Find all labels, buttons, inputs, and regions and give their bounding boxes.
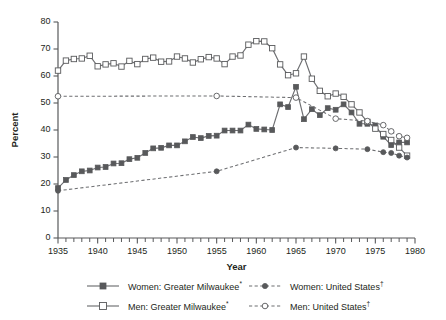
- data-point-marker: [293, 71, 298, 76]
- data-point-marker: [341, 94, 346, 99]
- data-point-marker: [397, 140, 402, 145]
- data-point-marker: [397, 153, 402, 158]
- x-axis-tick-label: 1950: [167, 246, 187, 256]
- data-point-marker: [262, 39, 267, 44]
- legend-key-solid-filled-square: [86, 280, 120, 292]
- data-point-marker: [222, 128, 227, 133]
- legend-item-men-united-states[interactable]: Men: United States†: [248, 298, 370, 313]
- data-point-marker: [262, 127, 267, 132]
- data-point-marker: [214, 56, 219, 61]
- y-axis-tick-label: 60: [40, 70, 50, 80]
- legend-label-men-united-states: Men: United States†: [290, 298, 370, 313]
- legend-key-dashed-filled-circle: [248, 280, 282, 292]
- data-point-marker: [341, 102, 346, 107]
- series-men-united-states: [55, 93, 410, 140]
- legend-item-women-greater-milwaukee[interactable]: Women: Greater Milwaukee*: [86, 278, 242, 293]
- y-axis-title: Percent: [9, 112, 20, 148]
- data-point-marker: [333, 116, 339, 122]
- data-point-marker: [230, 128, 235, 133]
- y-axis-tick-label: 0: [45, 232, 50, 242]
- data-point-marker: [166, 59, 171, 64]
- data-point-marker: [79, 169, 84, 174]
- series-line: [58, 148, 407, 191]
- data-point-marker: [309, 76, 314, 81]
- data-point-marker: [135, 61, 140, 66]
- data-point-marker: [119, 64, 124, 69]
- data-point-marker: [111, 61, 116, 66]
- data-point-marker: [333, 146, 338, 151]
- x-axis-title: Year: [226, 261, 246, 272]
- data-point-marker: [325, 106, 330, 111]
- line-chart: 0102030405060708019351940194519501955196…: [0, 0, 446, 272]
- data-point-marker: [277, 62, 282, 67]
- data-point-marker: [111, 161, 116, 166]
- chart-series-group: [55, 38, 410, 193]
- data-point-marker: [64, 178, 69, 183]
- x-axis-tick-label: 1940: [88, 246, 108, 256]
- x-axis-tick-label: 1945: [127, 246, 147, 256]
- data-point-marker: [159, 145, 164, 150]
- data-point-marker: [95, 165, 100, 170]
- data-point-marker: [55, 68, 60, 73]
- data-point-marker: [309, 107, 314, 112]
- legend-item-men-greater-milwaukee[interactable]: Men: Greater Milwaukee*: [86, 298, 229, 313]
- data-point-marker: [87, 168, 92, 173]
- x-axis-tick-label: 1960: [246, 246, 266, 256]
- data-point-marker: [79, 56, 84, 61]
- data-point-marker: [214, 133, 219, 138]
- x-axis-tick-label: 1935: [48, 246, 68, 256]
- data-point-marker: [333, 107, 338, 112]
- data-point-marker: [127, 157, 132, 162]
- data-point-marker: [301, 54, 306, 59]
- data-point-marker: [238, 128, 243, 133]
- data-point-marker: [206, 54, 211, 59]
- legend-key-solid-open-square: [86, 300, 120, 312]
- data-point-marker: [246, 42, 251, 47]
- data-point-marker: [198, 136, 203, 141]
- data-point-marker: [285, 72, 290, 77]
- data-point-marker: [333, 91, 338, 96]
- data-point-marker: [206, 134, 211, 139]
- y-axis-tick-label: 50: [40, 97, 50, 107]
- data-point-marker: [302, 117, 307, 122]
- data-point-marker: [87, 53, 92, 58]
- series-line: [58, 87, 407, 188]
- data-point-marker: [56, 188, 61, 193]
- legend-footnote-marker-asterisk-2: *: [226, 300, 229, 307]
- chart-axis-labels: 0102030405060708019351940194519501955196…: [9, 16, 425, 272]
- legend-label-women-united-states: Women: United States†: [290, 278, 384, 293]
- data-point-marker: [294, 84, 299, 89]
- data-point-marker: [55, 93, 61, 99]
- y-axis-tick-label: 10: [40, 205, 50, 215]
- data-point-marker: [127, 58, 132, 63]
- data-point-marker: [103, 165, 108, 170]
- series-women-united-states: [56, 145, 410, 193]
- data-point-marker: [95, 64, 100, 69]
- series-men-greater-milwaukee: [55, 38, 409, 158]
- data-point-marker: [278, 102, 283, 107]
- y-axis-tick-label: 20: [40, 178, 50, 188]
- data-point-marker: [381, 131, 386, 136]
- data-point-marker: [254, 38, 259, 43]
- legend-label-women-greater-milwaukee: Women: Greater Milwaukee*: [128, 278, 242, 293]
- data-point-marker: [238, 53, 243, 58]
- data-point-marker: [357, 110, 362, 115]
- legend-item-women-united-states[interactable]: Women: United States†: [248, 278, 384, 293]
- x-axis-tick-label: 1965: [286, 246, 306, 256]
- data-point-marker: [396, 145, 401, 150]
- chart-plot-area: 0102030405060708019351940194519501955196…: [0, 0, 446, 272]
- data-point-marker: [151, 146, 156, 151]
- data-point-marker: [254, 127, 259, 132]
- data-point-marker: [190, 60, 195, 65]
- legend-footnote-marker-dagger-1: †: [380, 280, 384, 287]
- figure-root: 0102030405060708019351940194519501955196…: [0, 0, 446, 320]
- data-point-marker: [380, 122, 386, 128]
- data-point-marker: [317, 88, 322, 93]
- data-point-marker: [293, 95, 299, 101]
- y-axis-tick-label: 80: [40, 16, 50, 26]
- data-point-marker: [175, 143, 180, 148]
- legend-footnote-marker-dagger-2: †: [367, 300, 371, 307]
- data-point-marker: [389, 143, 394, 148]
- data-point-marker: [143, 151, 148, 156]
- data-point-marker: [389, 137, 394, 142]
